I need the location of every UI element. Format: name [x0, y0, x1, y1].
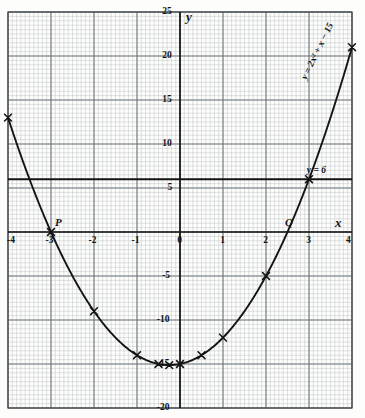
x-tick-label-3: 3	[306, 236, 311, 246]
x-tick-label-1: 1	[220, 236, 225, 246]
y-tick-label-neg15: -15	[157, 359, 170, 369]
point-label-p: P	[55, 217, 62, 228]
y-tick-label-5: 5	[168, 183, 173, 193]
y-tick-label-neg5: -5	[162, 271, 170, 281]
y-tick-label-neg10: -10	[157, 315, 170, 325]
x-axis-label: x	[335, 216, 342, 229]
y-tick-label-25: 25	[162, 7, 172, 17]
x-tick-label-2: 2	[263, 236, 268, 246]
x-tick-label-neg3: -3	[46, 236, 54, 246]
x-tick-label-neg1: -1	[132, 236, 140, 246]
point-label-q: Q	[285, 217, 293, 228]
x-tick-label-4: 4	[346, 236, 351, 246]
y-axis-label: y	[186, 10, 192, 23]
y-tick-label-20: 20	[162, 51, 172, 61]
x-tick-label-0: 0	[177, 236, 182, 246]
y-tick-label-10: 10	[162, 139, 172, 149]
x-tick-label-neg2: -2	[89, 236, 97, 246]
graph-page: -4-3-2-101234252015105-5-10-15-20yxPQy =…	[0, 0, 365, 418]
x-tick-label-neg4: -4	[7, 236, 15, 246]
y-tick-label-15: 15	[162, 95, 172, 105]
line-equation-label: y = 6	[307, 166, 326, 176]
y-tick-label-neg20: -20	[157, 403, 170, 413]
